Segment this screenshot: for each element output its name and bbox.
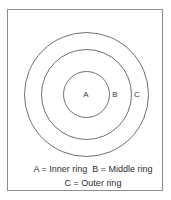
diagram-screenshot: A B C A = Inner ring B = Middle ring C =… (0, 0, 171, 200)
caption-line-2: C = Outer ring (16, 176, 170, 190)
outer-ring-label: C (131, 90, 143, 99)
diagram-frame: A B C A = Inner ring B = Middle ring C =… (7, 9, 163, 191)
caption-line-1: A = Inner ring B = Middle ring (16, 162, 170, 176)
diagram-caption: A = Inner ring B = Middle ring C = Outer… (16, 162, 170, 190)
middle-ring-label: B (109, 90, 121, 99)
inner-ring-label: A (80, 90, 92, 99)
